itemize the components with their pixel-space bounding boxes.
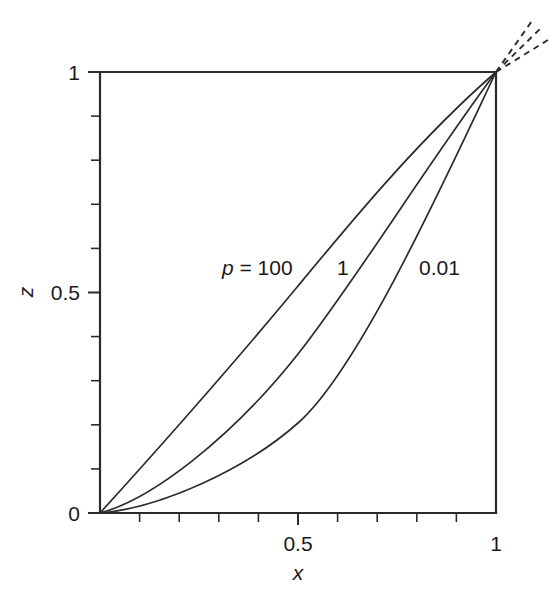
y-axis-label: z [14,286,37,298]
x-ticklabel-0.5: 0.5 [283,532,312,555]
chart-svg: 1 0.5 0 0.5 1 z x p = 100 1 0.01 [0,0,556,602]
y-ticklabel-0.5: 0.5 [51,281,80,304]
curve-extensions [496,18,548,72]
data-curves [100,72,496,513]
annotation-p-100: p = 100 [221,256,293,279]
figure-container: 1 0.5 0 0.5 1 z x p = 100 1 0.01 [0,0,556,602]
y-ticklabel-0: 0 [68,502,80,525]
annotation-p-001: 0.01 [419,256,460,279]
x-axis-ticks [140,513,457,525]
x-axis-label: x [292,561,305,584]
annotation-p-100-value: = 100 [234,256,293,279]
annotation-p-1: 1 [337,256,349,279]
x-ticklabel-1: 1 [490,532,502,555]
annotation-p-symbol: p [221,256,234,279]
curve-p-100 [100,72,496,513]
curve-extension-3 [496,40,548,72]
curve-extension-1 [496,18,534,72]
y-axis-ticks [88,72,100,513]
y-ticklabel-1: 1 [68,61,80,84]
curve-extension-2 [496,27,542,72]
series-annotations: p = 100 1 0.01 [221,256,460,279]
